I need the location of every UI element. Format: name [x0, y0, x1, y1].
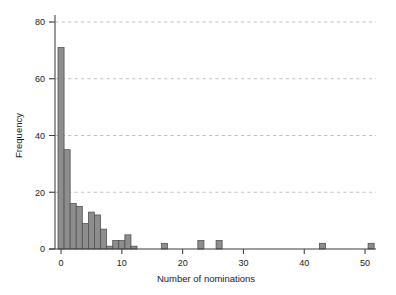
histogram-bar — [368, 243, 374, 249]
y-tick-label: 0 — [40, 244, 45, 254]
x-tick-label: 40 — [299, 258, 309, 268]
histogram-bar — [88, 212, 94, 249]
histogram-bar — [198, 240, 204, 249]
y-tick-label: 60 — [35, 74, 45, 84]
x-tick-label: 0 — [59, 258, 64, 268]
axis-group — [49, 15, 376, 249]
x-axis-title: Number of nominations — [157, 273, 255, 284]
histogram-bar — [76, 206, 82, 249]
histogram-bar — [216, 240, 222, 249]
histogram-bar — [64, 150, 70, 249]
histogram-bar — [113, 240, 119, 249]
x-tick-label: 50 — [360, 258, 370, 268]
histogram-figure: 020406080 01020304050 Number of nominati… — [0, 0, 396, 295]
y-tick-group: 020406080 — [35, 17, 55, 254]
histogram-bar — [125, 235, 131, 249]
x-tick-label: 20 — [178, 258, 188, 268]
y-tick-label: 80 — [35, 17, 45, 27]
x-tick-label: 10 — [117, 258, 127, 268]
histogram-bar — [70, 204, 76, 249]
histogram-bar — [119, 240, 125, 249]
histogram-bar — [161, 243, 167, 249]
y-axis-title: Frequency — [13, 113, 24, 158]
histogram-bar — [319, 243, 325, 249]
y-tick-label: 20 — [35, 188, 45, 198]
histogram-bar — [82, 223, 88, 249]
histogram-bar — [94, 215, 100, 249]
x-tick-label: 30 — [238, 258, 248, 268]
chart-canvas: 020406080 01020304050 Number of nominati… — [0, 0, 396, 295]
x-tick-group: 01020304050 — [59, 249, 371, 268]
histogram-bar — [101, 229, 107, 249]
bar-group — [58, 48, 374, 249]
gridline-group — [49, 22, 376, 192]
y-tick-label: 40 — [35, 131, 45, 141]
histogram-bar — [58, 48, 64, 249]
